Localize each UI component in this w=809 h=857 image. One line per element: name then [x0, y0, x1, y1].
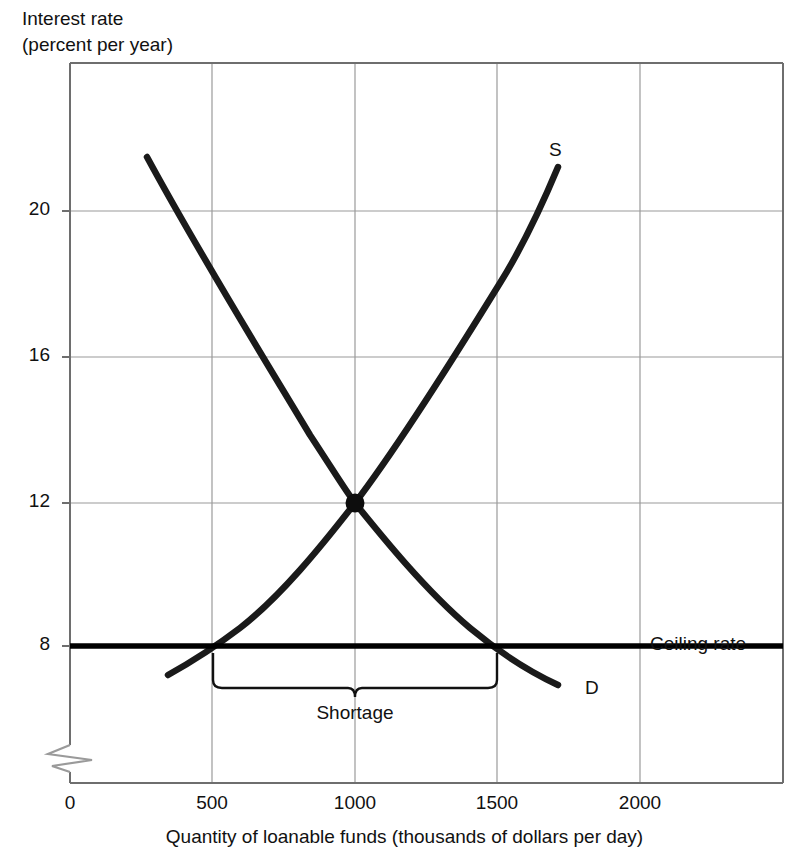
ceiling-rate-label: Ceiling rate [650, 633, 746, 655]
y-tick-label-8: 8 [4, 633, 50, 655]
x-tick-label-500: 500 [172, 792, 252, 814]
plot-frame [70, 63, 783, 783]
y-tick-label-20: 20 [4, 198, 50, 220]
demand-curve [147, 157, 558, 685]
equilibrium-point-marker [346, 494, 365, 513]
x-tick-label-2000: 2000 [600, 792, 680, 814]
gridlines [70, 63, 783, 783]
supply-curve-label: S [549, 139, 562, 161]
shortage-label: Shortage [255, 702, 455, 724]
y-axis-break-icon [48, 745, 92, 772]
x-tick-label-0: 0 [30, 792, 110, 814]
y-tick-label-12: 12 [4, 490, 50, 512]
plot-canvas [0, 0, 809, 857]
y-tick-label-16: 16 [4, 344, 50, 366]
x-axis-label: Quantity of loanable funds (thousands of… [0, 826, 809, 848]
supply-curve [168, 167, 558, 675]
x-tick-label-1500: 1500 [457, 792, 537, 814]
x-tick-label-1000: 1000 [315, 792, 395, 814]
demand-curve-label: D [585, 677, 599, 699]
y-tick-marks [62, 211, 70, 646]
economics-chart-figure: Interest rate (percent per year) [0, 0, 809, 857]
